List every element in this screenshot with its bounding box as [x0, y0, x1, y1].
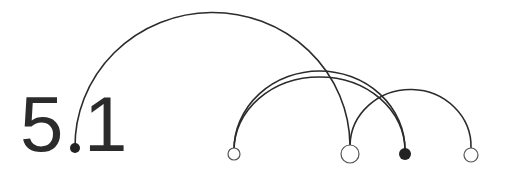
arc-n2-to-n4 — [350, 90, 471, 148]
arc-n1-to-n3-inner — [234, 77, 405, 150]
node-3 — [399, 148, 411, 160]
node-4 — [464, 148, 478, 162]
arc-diagram — [0, 0, 505, 174]
node-1 — [228, 148, 240, 160]
arc-dot-to-n2 — [75, 12, 350, 148]
dot-node — [70, 143, 80, 153]
arc-n1-to-n3-outer — [234, 71, 405, 150]
node-2 — [341, 145, 359, 163]
